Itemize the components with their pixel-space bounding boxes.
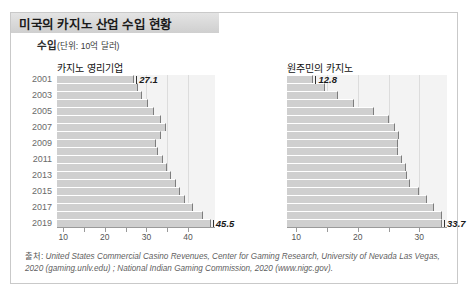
bar-row xyxy=(57,219,215,227)
subtitle-unit: (단위: 10억 달러) xyxy=(57,41,119,51)
bar xyxy=(57,219,211,227)
bar-series xyxy=(287,75,447,227)
bar xyxy=(57,139,156,147)
bar xyxy=(57,155,163,163)
bar-row xyxy=(57,203,215,211)
x-tick-label: 20 xyxy=(353,232,362,242)
bar xyxy=(287,115,389,123)
bar xyxy=(57,99,148,107)
bar-row xyxy=(287,171,447,179)
annotation-value: 45.5 xyxy=(216,218,235,229)
x-tick-label: 30 xyxy=(142,232,151,242)
bar xyxy=(287,179,410,187)
x-tick xyxy=(126,228,127,232)
bar xyxy=(287,203,434,211)
bar-row xyxy=(287,179,447,187)
bar-row xyxy=(57,91,215,99)
subtitle-bold: 수입 xyxy=(37,39,57,51)
x-axis-line xyxy=(287,227,447,228)
y-tick-label: 2013 xyxy=(32,170,52,180)
bar-row xyxy=(287,131,447,139)
annotation-tick-icon xyxy=(136,76,137,84)
bar xyxy=(57,179,176,187)
title-bar: 미국의 카지노 산업 수입 현황 xyxy=(11,13,219,33)
bar xyxy=(287,155,402,163)
axis-unit-caption: 수입(단위: 10억 달러) xyxy=(37,37,119,52)
bar-series xyxy=(57,75,215,227)
bar xyxy=(287,195,427,203)
bar xyxy=(287,187,419,195)
bar xyxy=(287,91,338,99)
x-tick xyxy=(167,228,168,232)
bar-row xyxy=(57,155,215,163)
bar xyxy=(287,147,398,155)
bar xyxy=(287,107,374,115)
bar xyxy=(57,211,203,219)
bar-row xyxy=(57,187,215,195)
annotation-value: 27.1 xyxy=(139,74,158,85)
bar-row xyxy=(287,163,447,171)
annotation-value: 12.8 xyxy=(318,74,337,85)
panel-title: 카지노 영리기업 xyxy=(57,60,123,75)
source-citation: 출처: United States Commercial Casino Reve… xyxy=(25,251,447,275)
y-tick-label: 2001 xyxy=(32,74,52,84)
x-tick-label: 30 xyxy=(415,232,424,242)
bar-row xyxy=(57,179,215,187)
annotation-tick-icon xyxy=(315,76,316,84)
bar-row xyxy=(287,155,447,163)
bar xyxy=(287,139,398,147)
bar xyxy=(57,83,138,91)
bar-row xyxy=(57,99,215,107)
value-annotation: 45.5 xyxy=(213,218,235,229)
bar-row xyxy=(57,107,215,115)
source-label: 출처: xyxy=(25,252,43,261)
bar-row xyxy=(57,211,215,219)
bar-row xyxy=(287,123,447,131)
y-tick-label: 2017 xyxy=(32,202,52,212)
bar-row xyxy=(287,91,447,99)
value-annotation: 33.7 xyxy=(444,218,466,229)
bar-row xyxy=(287,107,447,115)
x-tick-label: 10 xyxy=(59,232,68,242)
bar-row xyxy=(287,83,447,91)
bar-row xyxy=(287,187,447,195)
bar xyxy=(57,163,167,171)
bar-row xyxy=(57,163,215,171)
x-axis-line xyxy=(57,227,215,228)
bar-row xyxy=(287,75,447,83)
value-annotation: 27.1 xyxy=(136,74,158,85)
y-tick-label: 2009 xyxy=(32,138,52,148)
chart-panel-tribal: 원주민의 카지노12.833.7102030 xyxy=(287,75,447,227)
bar xyxy=(57,195,185,203)
page-title: 미국의 카지노 산업 수입 현황 xyxy=(19,14,172,33)
bar xyxy=(57,91,142,99)
bar-row xyxy=(57,195,215,203)
bar xyxy=(287,131,399,139)
bar-row xyxy=(287,203,447,211)
bar-row xyxy=(57,123,215,131)
panel-title: 원주민의 카지노 xyxy=(287,60,353,75)
bar-row xyxy=(287,115,447,123)
bar-row xyxy=(287,219,447,227)
x-tick-label: 20 xyxy=(100,232,109,242)
infographic-card: 미국의 카지노 산업 수입 현황 수입(단위: 10억 달러) 카지노 영리기업… xyxy=(10,12,458,284)
bar xyxy=(287,163,406,171)
bar-row xyxy=(57,131,215,139)
bar-row xyxy=(287,211,447,219)
bar-row xyxy=(57,115,215,123)
bar xyxy=(287,211,442,219)
bar xyxy=(287,219,442,227)
bar xyxy=(57,203,193,211)
bar-row xyxy=(287,147,447,155)
bar xyxy=(57,187,180,195)
x-tick-label: 40 xyxy=(183,232,192,242)
bar-row xyxy=(287,99,447,107)
annotation-value: 33.7 xyxy=(447,218,466,229)
value-annotation: 12.8 xyxy=(315,74,337,85)
bar-row xyxy=(287,139,447,147)
y-tick-label: 2003 xyxy=(32,90,52,100)
bar xyxy=(57,115,161,123)
x-tick xyxy=(327,228,328,232)
bar xyxy=(57,147,158,155)
source-text: United States Commercial Casino Revenues… xyxy=(25,252,440,273)
